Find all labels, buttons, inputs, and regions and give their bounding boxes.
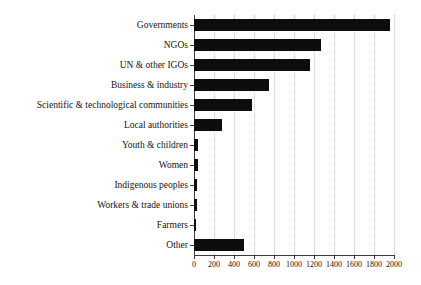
bar-row[interactable] [194, 35, 394, 55]
bar[interactable] [194, 39, 321, 51]
x-axis-tick [334, 255, 335, 259]
x-axis-tick-label: 1400 [326, 260, 342, 270]
y-axis-tick [190, 25, 194, 26]
bar-series [194, 15, 394, 255]
x-axis-tick [214, 255, 215, 259]
bar[interactable] [194, 139, 198, 151]
category-label: UN & other IGOs [0, 55, 188, 75]
gridline [394, 15, 395, 255]
y-axis-tick [190, 185, 194, 186]
category-label: Youth & children [0, 135, 188, 155]
x-axis-tick-label: 1000 [286, 260, 302, 270]
bar-row[interactable] [194, 135, 394, 155]
x-axis-tick [254, 255, 255, 259]
y-axis-tick [190, 105, 194, 106]
x-axis-tick [294, 255, 295, 259]
y-axis-tick [190, 145, 194, 146]
bar-row[interactable] [194, 215, 394, 235]
bar[interactable] [194, 19, 390, 31]
category-label: Farmers [0, 215, 188, 235]
bar-row[interactable] [194, 55, 394, 75]
bar[interactable] [194, 179, 197, 191]
x-axis-tick-label: 2000 [386, 260, 402, 270]
y-axis-tick [190, 165, 194, 166]
category-label: Governments [0, 15, 188, 35]
bar-row[interactable] [194, 155, 394, 175]
plot-area [194, 15, 394, 255]
category-label: Women [0, 155, 188, 175]
bar[interactable] [194, 59, 310, 71]
bar-row[interactable] [194, 115, 394, 135]
x-axis-tick [374, 255, 375, 259]
bar-row[interactable] [194, 75, 394, 95]
bar[interactable] [194, 79, 269, 91]
bar-chart-figure: GovernmentsNGOsUN & other IGOsBusiness &… [0, 0, 421, 285]
x-axis-tick [354, 255, 355, 259]
y-axis-tick [190, 65, 194, 66]
bar-row[interactable] [194, 15, 394, 35]
category-axis-labels: GovernmentsNGOsUN & other IGOsBusiness &… [0, 15, 188, 255]
x-axis-tick-label: 400 [228, 260, 240, 270]
category-label: Scientific & technological communities [0, 95, 188, 115]
category-label: Other [0, 235, 188, 255]
x-axis-tick-label: 200 [208, 260, 220, 270]
x-axis-tick [274, 255, 275, 259]
category-label: Workers & trade unions [0, 195, 188, 215]
bar[interactable] [194, 159, 198, 171]
category-label: NGOs [0, 35, 188, 55]
y-axis-tick [190, 225, 194, 226]
y-axis-tick [190, 85, 194, 86]
y-axis-tick [190, 125, 194, 126]
bar-row[interactable] [194, 235, 394, 255]
bar[interactable] [194, 99, 252, 111]
x-axis-tick [194, 255, 195, 259]
bar-row[interactable] [194, 95, 394, 115]
x-axis-tick-label: 600 [248, 260, 260, 270]
category-label: Indigenous peoples [0, 175, 188, 195]
bar-row[interactable] [194, 175, 394, 195]
bar-row[interactable] [194, 195, 394, 215]
bar[interactable] [194, 119, 222, 131]
bar[interactable] [194, 219, 196, 231]
x-axis-tick-label: 1600 [346, 260, 362, 270]
bar[interactable] [194, 239, 244, 251]
x-axis-tick-label: 0 [192, 260, 196, 270]
x-axis-tick-label: 800 [268, 260, 280, 270]
y-axis-tick [190, 245, 194, 246]
x-axis-tick [394, 255, 395, 259]
x-axis-tick-label: 1200 [306, 260, 322, 270]
y-axis-tick [190, 45, 194, 46]
category-label: Business & industry [0, 75, 188, 95]
x-axis-tick [234, 255, 235, 259]
bar[interactable] [194, 199, 197, 211]
y-axis-tick [190, 205, 194, 206]
category-label: Local authorities [0, 115, 188, 135]
x-axis-tick [314, 255, 315, 259]
x-axis-tick-label: 1800 [366, 260, 382, 270]
